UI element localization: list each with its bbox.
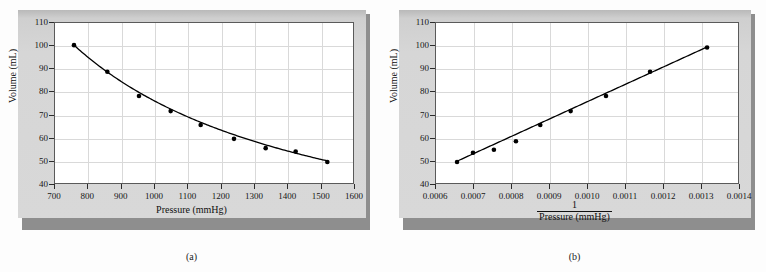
data-point xyxy=(514,139,519,144)
data-point xyxy=(604,94,609,99)
data-point xyxy=(325,160,330,165)
data-point xyxy=(455,160,460,165)
data-point xyxy=(168,109,173,114)
data-point xyxy=(263,146,268,151)
data-point xyxy=(72,43,77,48)
panel-b: Volume (mL) 1 Pressure (mmHg) (b) 0.0006… xyxy=(383,0,766,272)
fit-curve xyxy=(457,47,707,161)
figure-two-panel-boyles-law: Volume (mL) Pressure (mmHg) (a) 70080090… xyxy=(0,0,766,272)
data-point xyxy=(105,69,110,74)
data-point xyxy=(471,150,476,155)
data-point xyxy=(538,123,543,128)
panel-a-series xyxy=(0,0,383,272)
data-point xyxy=(568,109,573,114)
panel-a: Volume (mL) Pressure (mmHg) (a) 70080090… xyxy=(0,0,383,272)
data-point xyxy=(705,45,710,50)
panel-b-series xyxy=(383,0,766,272)
data-point xyxy=(137,94,142,99)
data-point xyxy=(198,123,203,128)
data-point xyxy=(492,147,497,152)
data-point xyxy=(232,137,237,142)
fit-curve xyxy=(74,45,327,161)
data-point xyxy=(648,69,653,74)
data-point xyxy=(293,149,298,154)
